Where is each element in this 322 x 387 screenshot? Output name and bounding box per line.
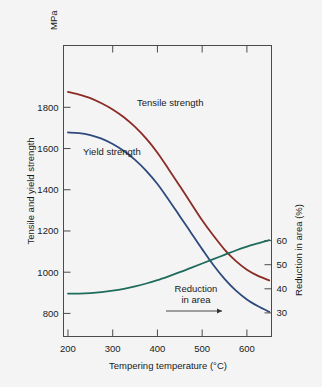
figure-container: MPa 80010001200140016001800 30405060 200…	[0, 0, 322, 387]
left-tick-label: 1000	[37, 267, 58, 278]
right-tick-label: 40	[277, 283, 288, 294]
bottom-tick-label: 600	[239, 343, 255, 354]
right-tick-label: 60	[277, 235, 288, 246]
right-tick-label: 50	[277, 259, 288, 270]
left-tick-label: 1400	[37, 184, 58, 195]
y-axis-left-title: Tensile and yield strength	[25, 137, 36, 244]
left-tick-label: 1800	[37, 102, 58, 113]
left-tick-label: 1200	[37, 225, 58, 236]
reduction-annotation-line2: in area	[181, 294, 211, 305]
reduction-annotation-line1: Reduction	[175, 283, 218, 294]
bottom-tick-label: 300	[105, 343, 121, 354]
bottom-tick-label: 200	[60, 343, 76, 354]
series-label-yield-strength: Yield strength	[83, 146, 141, 157]
x-axis-title: Tempering temperature (°C)	[109, 360, 227, 371]
left-tick-label: 1600	[37, 143, 58, 154]
bottom-tick-label: 400	[150, 343, 166, 354]
y-axis-unit-label: MPa	[48, 10, 59, 30]
series-label-tensile-strength: Tensile strength	[137, 97, 204, 108]
right-tick-label: 30	[277, 307, 288, 318]
left-tick-label: 800	[43, 308, 59, 319]
tempering-temperature-chart: MPa 80010001200140016001800 30405060 200…	[0, 0, 322, 387]
bottom-tick-label: 500	[194, 343, 210, 354]
y-axis-right-title: Reduction in area (%)	[293, 204, 304, 296]
